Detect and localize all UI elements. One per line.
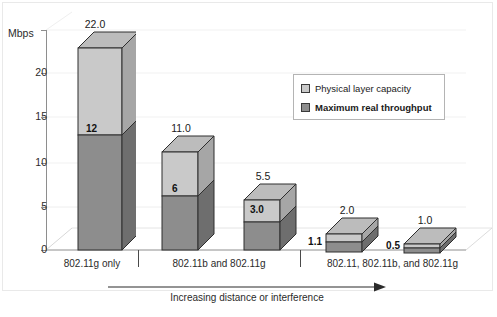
- y-tick-label-5: 5: [7, 200, 47, 212]
- legend-swatch-icon-throughput: [301, 103, 310, 112]
- bar-4-throughput-label: 1.1: [296, 236, 322, 247]
- bar-3-shape: [242, 182, 298, 258]
- y-tick-label-20: 20: [7, 66, 47, 78]
- bar-3-throughput-label: 3.0: [250, 204, 264, 215]
- y-tick-label-10: 10: [7, 156, 47, 168]
- legend-swatch-icon-physical: [301, 84, 310, 93]
- y-axis-title: Mbps: [8, 27, 34, 39]
- wifi-throughput-chart: Mbps 20 15 10 5 0 22.0 12 11.0: [0, 0, 497, 317]
- legend-item-physical-layer-capacity: Physical layer capacity: [301, 83, 411, 94]
- category-label-3: 802.11, 802.11b, and 802.11g: [300, 258, 485, 269]
- chart-legend: Physical layer capacity Maximum real thr…: [293, 74, 445, 120]
- legend-label-physical: Physical layer capacity: [315, 83, 411, 94]
- legend-item-maximum-real-throughput: Maximum real throughput: [301, 102, 432, 113]
- bar-5-throughput-label: 0.5: [372, 240, 400, 251]
- bar-1-total-label: 22.0: [60, 18, 130, 30]
- x-axis-annotation: Increasing distance or interference: [108, 292, 386, 303]
- bar-2-total-label: 11.0: [146, 122, 216, 134]
- legend-label-throughput: Maximum real throughput: [315, 102, 432, 113]
- bar-5-total-label: 1.0: [390, 214, 460, 226]
- bar-4-shape: [324, 216, 380, 262]
- y-axis-line: [46, 30, 47, 250]
- y-tick-25: [41, 30, 47, 31]
- bar-5-shape: [402, 226, 458, 262]
- y-tick-label-15: 15: [7, 110, 47, 122]
- bar-4-total-label: 2.0: [312, 204, 382, 216]
- bar-2-throughput-label: 6: [172, 183, 178, 194]
- bar-1-throughput-label: 12: [86, 123, 97, 134]
- y-tick-label-0: 0: [7, 243, 47, 255]
- bar-2-shape: [160, 134, 216, 256]
- chart-3d-plane: [0, 0, 497, 317]
- bar-3-total-label: 5.5: [228, 170, 298, 182]
- bar-1-shape: [76, 30, 136, 255]
- category-label-1: 802.11g only: [46, 258, 138, 269]
- category-label-2: 802.11b and 802.11g: [138, 258, 300, 269]
